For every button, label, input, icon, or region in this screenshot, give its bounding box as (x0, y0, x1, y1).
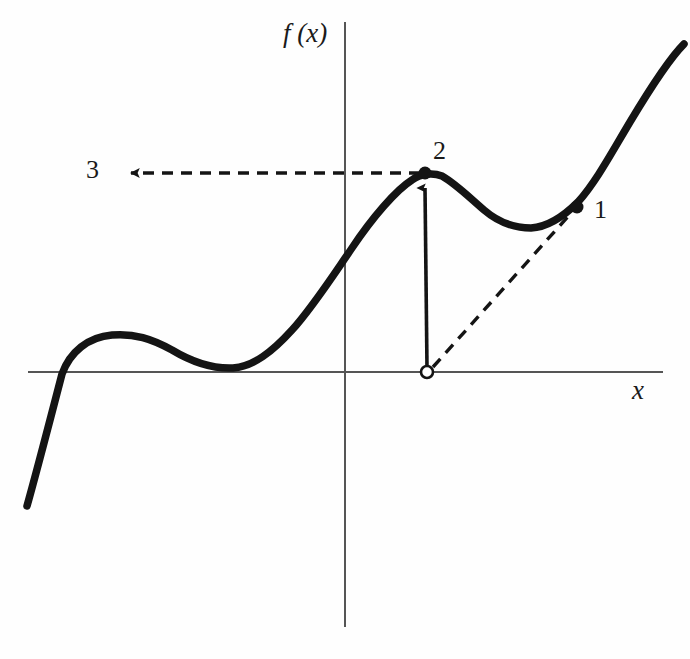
point-2-marker (419, 167, 432, 180)
function-curve (27, 44, 684, 506)
diagonal-dashed-line (433, 211, 573, 367)
point-label-3: 3 (86, 155, 99, 185)
vertical-arrow (425, 188, 427, 368)
function-graph-figure: f (x) x 1 2 3 (0, 0, 690, 659)
y-axis-label: f (x) (283, 18, 327, 49)
graph-canvas (0, 0, 690, 659)
point-label-1: 1 (594, 195, 607, 225)
x-axis-label: x (632, 375, 644, 406)
point-label-2: 2 (433, 136, 446, 166)
open-circle-marker (421, 366, 433, 378)
point-1-marker (571, 201, 584, 214)
